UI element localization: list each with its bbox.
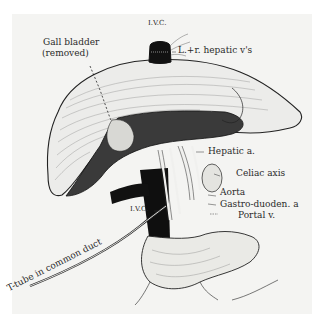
anatomy-figure: I.V.C. Gall bladder (removed) L.+r. hepa… <box>0 0 324 321</box>
label-hepatic-artery: Hepatic a. <box>208 147 255 156</box>
label-portal-vein: Portal v. <box>238 211 275 220</box>
label-celiac-axis: Celiac axis <box>236 169 285 178</box>
label-hepatic-veins: L.+r. hepatic v's <box>178 46 252 55</box>
label-ivc-top: I.V.C. <box>148 20 166 27</box>
label-aorta: Aorta <box>220 188 245 197</box>
label-ivc-lower: I.V.C. <box>130 206 148 213</box>
ivc-top-vessel <box>149 42 171 64</box>
label-gall-bladder-removed: (removed) <box>42 49 89 58</box>
label-gastroduodenal-artery: Gastro-duoden. a <box>220 200 299 209</box>
label-gall-bladder: Gall bladder <box>43 38 99 47</box>
duodenum-outline <box>142 232 260 289</box>
